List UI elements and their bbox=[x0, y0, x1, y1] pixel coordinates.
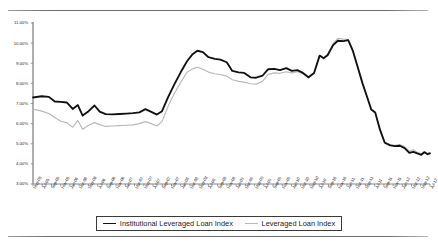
legend-label-institutional: Institutional Leveraged Loan Index bbox=[120, 219, 233, 228]
plot-area: 11.00%10.00%9.00%8.00%7.00%6.00%5.00%4.0… bbox=[0, 16, 436, 188]
bottom-divider-rule bbox=[8, 236, 428, 237]
legend-item-institutional: Institutional Leveraged Loan Index bbox=[103, 219, 233, 228]
y-axis-label: 9.00% bbox=[0, 61, 28, 66]
legend-item-leveraged: Leveraged Loan Index bbox=[245, 219, 336, 228]
legend-line-icon-institutional bbox=[103, 223, 116, 224]
y-axis-label: 6.00% bbox=[0, 121, 28, 126]
y-axis-label: 7.00% bbox=[0, 101, 28, 106]
y-axis-label: 10.00% bbox=[0, 41, 28, 46]
top-divider-rule bbox=[8, 10, 428, 11]
legend-line-icon-leveraged bbox=[245, 223, 258, 224]
line-chart-svg bbox=[0, 16, 436, 188]
series-line-leveraged bbox=[33, 38, 430, 154]
series-line-institutional bbox=[33, 40, 430, 155]
legend-label-leveraged: Leveraged Loan Index bbox=[262, 219, 336, 228]
x-axis-labels: May-05Jul-05Sep-05Nov-05Jan-06Mar-06May-… bbox=[0, 186, 436, 212]
y-axis-label: 4.00% bbox=[0, 161, 28, 166]
y-axis-label: 11.00% bbox=[0, 20, 28, 25]
y-axis-label: 8.00% bbox=[0, 81, 28, 86]
chart-legend: Institutional Leveraged Loan Index Lever… bbox=[96, 216, 342, 231]
y-axis-label: 5.00% bbox=[0, 141, 28, 146]
